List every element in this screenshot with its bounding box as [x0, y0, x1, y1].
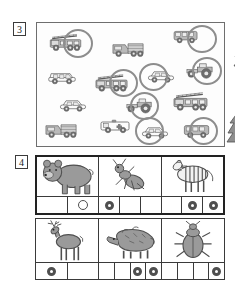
filled-circle-icon: [212, 267, 221, 276]
syllable-box[interactable]: [37, 197, 68, 213]
syllable-box[interactable]: [68, 263, 99, 279]
syllable-boxes: [36, 262, 98, 279]
circle-mark-icon: [192, 57, 222, 85]
fire-truck-icon[interactable]: [173, 91, 209, 113]
exercise-3-scene-panel[interactable]: [36, 22, 225, 147]
boar-icon: [99, 219, 161, 262]
animal-cell-deer[interactable]: [36, 219, 99, 279]
syllable-box[interactable]: [68, 197, 98, 213]
syllable-box[interactable]: [146, 263, 161, 279]
animal-cell-ant[interactable]: [99, 157, 161, 213]
animal-cell-bear[interactable]: [37, 157, 99, 213]
syllable-box[interactable]: [131, 263, 147, 279]
filled-circle-icon: [188, 201, 197, 210]
circle-mark-icon: [109, 69, 138, 97]
syllable-boxes: [162, 196, 223, 213]
beetle-icon: [162, 219, 224, 262]
circle-mark-icon: [139, 63, 168, 91]
deer-icon: [36, 219, 98, 262]
animal-row: [35, 218, 225, 280]
exercise-4-grid: [35, 155, 225, 283]
fir-tree-icon[interactable]: [225, 111, 235, 147]
ambulance-icon[interactable]: [100, 117, 131, 136]
syllable-box[interactable]: [182, 197, 203, 213]
syllable-box[interactable]: [99, 197, 120, 213]
syllable-boxes: [37, 196, 98, 213]
zebra-icon: [162, 157, 223, 196]
syllable-box[interactable]: [178, 263, 194, 279]
syllable-box[interactable]: [194, 263, 210, 279]
worksheet-page: 3: [0, 0, 235, 292]
animal-row: [35, 155, 225, 215]
dump-truck-icon[interactable]: [45, 120, 78, 140]
animal-cell-zebra[interactable]: [162, 157, 223, 213]
animal-cell-beetle[interactable]: [162, 219, 224, 279]
bear-icon: [37, 157, 98, 196]
syllable-box[interactable]: [162, 263, 178, 279]
car-icon[interactable]: [59, 96, 87, 114]
filled-circle-icon: [149, 267, 158, 276]
van-icon[interactable]: [47, 68, 77, 86]
syllable-box[interactable]: [203, 197, 223, 213]
syllable-box[interactable]: [141, 197, 161, 213]
syllable-boxes: [162, 262, 224, 279]
exercise-number-3: 3: [13, 22, 26, 36]
syllable-box[interactable]: [209, 263, 224, 279]
syllable-boxes: [99, 196, 160, 213]
filled-circle-icon: [47, 267, 56, 276]
syllable-box[interactable]: [99, 263, 115, 279]
fir-tree-icon[interactable]: [232, 35, 235, 71]
circle-mark-icon: [63, 29, 93, 58]
filled-circle-icon: [105, 201, 114, 210]
circle-mark-icon: [189, 117, 218, 145]
hollow-circle-icon: [78, 200, 88, 210]
filled-circle-icon: [209, 201, 218, 210]
circle-mark-icon: [135, 117, 164, 145]
circle-mark-icon: [187, 25, 217, 53]
ant-icon: [99, 157, 160, 196]
circle-mark-icon: [130, 92, 159, 120]
filled-circle-icon: [133, 267, 142, 276]
exercise-number-4: 4: [15, 155, 28, 169]
syllable-box[interactable]: [120, 197, 141, 213]
syllable-boxes: [99, 262, 161, 279]
syllable-box[interactable]: [36, 263, 68, 279]
dump-truck-icon[interactable]: [112, 39, 145, 59]
syllable-box[interactable]: [162, 197, 183, 213]
syllable-box[interactable]: [115, 263, 131, 279]
animal-cell-boar[interactable]: [99, 219, 162, 279]
